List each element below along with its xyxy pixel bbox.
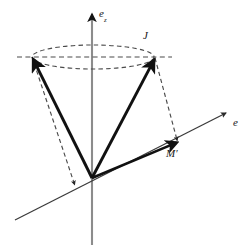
vertical-axis-label: ez xyxy=(99,8,107,22)
angular-momentum-label: J xyxy=(143,30,148,41)
e-axis-label: e xyxy=(233,117,238,128)
angular-momentum-label-base: J xyxy=(143,29,148,41)
vertical-axis-label-subscript: z xyxy=(104,16,107,23)
projector-right-dashed xyxy=(155,58,177,141)
diagram-svg xyxy=(0,0,250,251)
projection-point-label-prime: ′ xyxy=(175,147,177,159)
projection-point-label-base: M xyxy=(166,147,175,159)
angular-momentum-vector-right xyxy=(92,60,154,178)
projected-vector-M-prime xyxy=(92,143,177,178)
e-axis-label-base: e xyxy=(233,116,238,128)
projector-left-dashed xyxy=(32,57,75,185)
angular-momentum-vector-left xyxy=(33,60,92,178)
projection-point-label: M′ xyxy=(166,148,178,159)
figure-canvas: ez e J M′ xyxy=(0,0,250,251)
